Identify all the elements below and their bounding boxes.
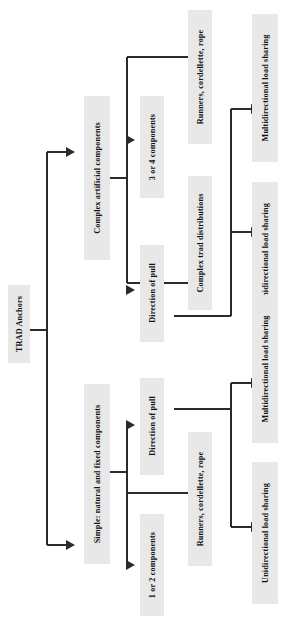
node-label: Runners, cordellette, rope: [196, 29, 205, 124]
node-unidirectional-load-sharing-simple[interactable]: Unidirectional load sharing: [252, 462, 278, 604]
arrowhead-to-complex: [66, 147, 75, 157]
node-label: 3 or 4 components: [148, 114, 157, 180]
node-label: Runners, cordellette, rope: [196, 451, 205, 546]
node-label: Simple: natural and fixed components: [93, 405, 102, 544]
node-1-or-2-components[interactable]: 1 or 2 components: [140, 514, 164, 616]
node-complex-trad-distributions[interactable]: Complex trad distributions: [188, 176, 212, 310]
node-multidirectional-load-sharing-simple[interactable]: Multidirectional load sharing: [252, 295, 278, 443]
arrowhead-to-direction-of-pull-complex: [126, 285, 135, 295]
arrowhead-to-direction-of-pull-simple: [126, 420, 135, 430]
node-3-or-4-components[interactable]: 3 or 4 components: [140, 96, 164, 198]
trad-anchors-flowchart: TRAD Anchors Complex artificial componen…: [0, 0, 303, 628]
arrowhead-to-1or2-components: [126, 560, 135, 570]
node-label: Direction of pull: [148, 396, 157, 456]
node-label: Direction of pull: [148, 263, 157, 323]
node-label: Multidirectional load sharing: [261, 34, 270, 142]
node-simple-natural-fixed-components[interactable]: Simple: natural and fixed components: [84, 384, 110, 564]
node-direction-of-pull-complex[interactable]: Direction of pull: [140, 245, 164, 342]
node-label: Unidirectional load sharing: [261, 482, 270, 583]
arrowhead-to-simple: [66, 540, 75, 550]
node-label: Multidirectional load sharing: [261, 315, 270, 423]
arrowhead-to-3or4: [126, 135, 135, 145]
node-complex-artificial-components[interactable]: Complex artificial components: [84, 96, 110, 260]
node-label: 1 or 2 components: [148, 532, 157, 598]
node-runners-cordellette-rope-simple[interactable]: Runners, cordellette, rope: [188, 432, 212, 566]
node-label: Complex trad distributions: [196, 194, 205, 293]
node-trad-anchors[interactable]: TRAD Anchors: [8, 285, 30, 363]
node-runners-cordellette-rope-complex[interactable]: Runners, cordellette, rope: [188, 10, 212, 144]
node-label: Complex artificial components: [93, 122, 102, 234]
node-label: TRAD Anchors: [15, 296, 24, 352]
node-direction-of-pull-simple[interactable]: Direction of pull: [140, 378, 164, 475]
node-multidirectional-load-sharing-complex[interactable]: Multidirectional load sharing: [252, 14, 278, 162]
node-label: Unidirectional load sharing: [261, 202, 270, 303]
flowchart-canvas: TRAD Anchors Complex artificial componen…: [0, 0, 303, 628]
